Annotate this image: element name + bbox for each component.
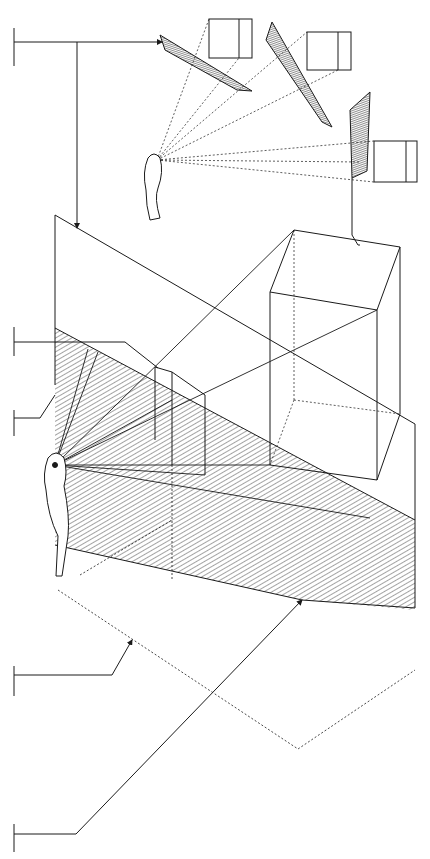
inset-illustration bbox=[144, 19, 417, 245]
inset-cube-2 bbox=[307, 32, 351, 70]
inset-cube-3 bbox=[374, 141, 417, 182]
main-illustration bbox=[44, 215, 415, 749]
inset-plane-3 bbox=[350, 92, 370, 178]
inset-sight-lines bbox=[157, 19, 374, 182]
inset-plane-1 bbox=[160, 35, 252, 91]
diagram-canvas bbox=[0, 0, 430, 859]
perspective-diagram bbox=[0, 0, 430, 859]
eye-point bbox=[53, 463, 58, 468]
large-cube bbox=[270, 230, 400, 480]
inset-plane-2 bbox=[266, 22, 332, 127]
observer-figure bbox=[44, 453, 68, 576]
inset-figure bbox=[144, 154, 161, 220]
inset-cube-1 bbox=[209, 19, 252, 58]
